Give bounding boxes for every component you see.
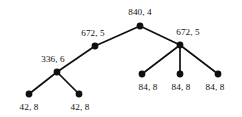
tree-edge <box>29 72 57 94</box>
tree-edge <box>142 45 180 74</box>
tree-node-label-r1: 672, 5 <box>176 27 200 37</box>
tree-node-l3b <box>76 91 83 98</box>
tree-diagram-canvas: 840, 4672, 5672, 5336, 642, 842, 884, 88… <box>0 0 242 117</box>
tree-node-label-l3b: 42, 8 <box>71 102 90 112</box>
tree-node-label-root: 840, 4 <box>128 7 152 17</box>
tree-node-label-r2b: 84, 8 <box>172 82 191 92</box>
tree-node-label-l2: 336, 6 <box>41 54 65 64</box>
tree-diagram: 840, 4672, 5672, 5336, 642, 842, 884, 88… <box>0 0 242 117</box>
tree-edge <box>180 45 218 74</box>
tree-node-label-l3a: 42, 8 <box>20 102 39 112</box>
tree-node-r2b <box>177 71 184 78</box>
tree-node-label-r2c: 84, 8 <box>206 82 225 92</box>
tree-node-l1 <box>92 43 99 50</box>
node-label-group: 840, 4672, 5672, 5336, 642, 842, 884, 88… <box>20 7 225 112</box>
tree-node-r1 <box>177 42 184 49</box>
tree-node-label-r2a: 84, 8 <box>139 82 158 92</box>
tree-node-l3a <box>26 91 33 98</box>
tree-node-r2a <box>139 71 146 78</box>
tree-node-label-l1: 672, 5 <box>81 28 105 38</box>
tree-edge <box>140 26 180 45</box>
tree-node-root <box>137 23 144 30</box>
tree-edge <box>57 72 79 94</box>
tree-node-r2c <box>215 71 222 78</box>
tree-node-l2 <box>54 69 61 76</box>
